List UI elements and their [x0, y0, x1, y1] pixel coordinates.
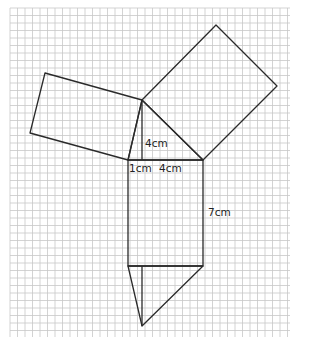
bottom-triangle	[128, 266, 203, 326]
top-triangle	[128, 100, 203, 160]
label-1cm: 1cm	[129, 163, 152, 174]
label-7cm: 7cm	[208, 207, 231, 218]
label-height-4cm: 4cm	[145, 138, 168, 149]
left-square	[30, 73, 142, 160]
rectangle	[128, 160, 203, 266]
net-shapes	[30, 25, 277, 326]
label-base-4cm: 4cm	[159, 163, 182, 174]
